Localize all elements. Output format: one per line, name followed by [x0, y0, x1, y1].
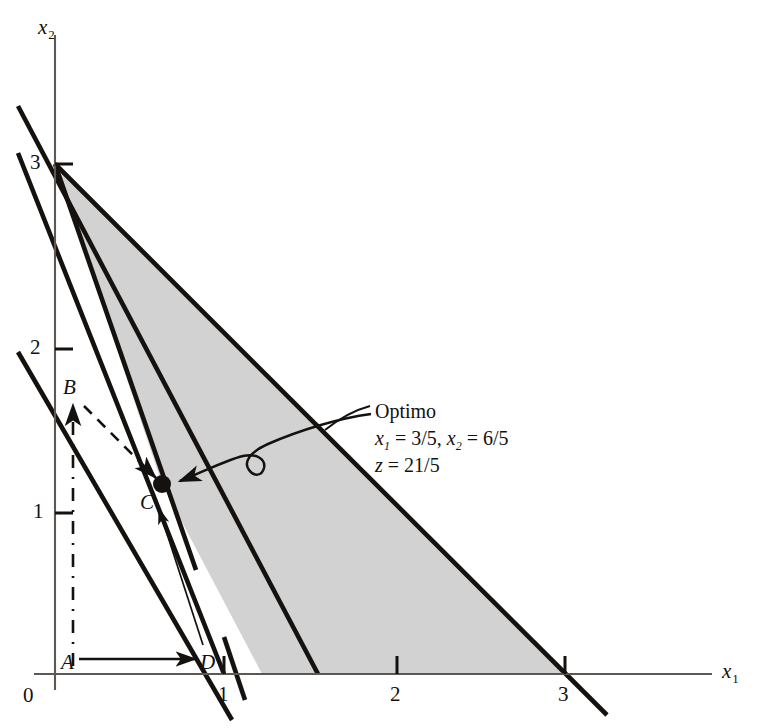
x-tick-label-1: 1	[218, 684, 229, 705]
optimum-annotation-heading: Optimo	[375, 398, 508, 425]
origin-label: 0	[23, 685, 34, 706]
vertex-label-d: D	[200, 652, 215, 673]
y-tick-label-1: 1	[33, 501, 44, 522]
vertex-label-a: A	[61, 652, 74, 673]
x-axis-label: x1	[722, 661, 738, 682]
optimum-annotation: Optimo x1 = 3/5, x2 = 6/5 z = 21/5	[375, 398, 508, 479]
linear-programming-graph: x2 x1 0 3 2 1 1 2 3 A B C D Optimo x1 = …	[0, 0, 770, 728]
y-tick-label-2: 2	[30, 337, 41, 358]
optimum-point-dot	[153, 475, 171, 493]
vertex-label-c: C	[140, 492, 154, 513]
optimum-annotation-variables: x1 = 3/5, x2 = 6/5	[375, 425, 508, 452]
x-tick-label-3: 3	[558, 684, 569, 705]
optimum-annotation-objective: z = 21/5	[375, 452, 508, 479]
plot-canvas	[0, 0, 770, 728]
vertex-label-b: B	[63, 377, 76, 398]
x-tick-label-2: 2	[390, 684, 401, 705]
y-axis-label: x2	[38, 17, 54, 38]
y-tick-label-3: 3	[30, 152, 41, 173]
